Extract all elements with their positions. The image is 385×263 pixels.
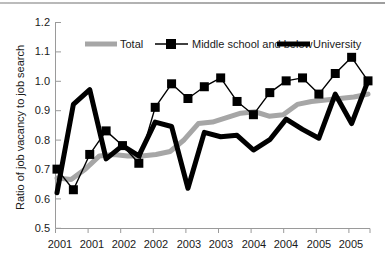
data-point-marker-middle-school-and-below: [69, 185, 78, 194]
y-axis-ticks: [56, 23, 62, 229]
data-point-marker-middle-school-and-below: [298, 73, 307, 82]
x-axis-ticks: [56, 229, 371, 234]
y-tick-label: 0.8: [35, 134, 50, 146]
data-point-marker-middle-school-and-below: [151, 103, 160, 112]
data-point-marker-middle-school-and-below: [200, 82, 209, 91]
x-tick-label: 2001: [48, 238, 72, 250]
x-tick-label: 2002: [112, 238, 136, 250]
x-tick-label: 2005: [339, 238, 363, 250]
y-tick-label: 1.1: [35, 45, 50, 57]
data-point-marker-middle-school-and-below: [183, 94, 192, 103]
data-point-marker-middle-school-and-below: [85, 150, 94, 159]
x-axis-tick-labels: 2001 2001 2002 2002 2003 2003 2004 2004 …: [48, 238, 363, 250]
top-divider-rule: [0, 2, 385, 4]
x-tick-label: 2005: [307, 238, 331, 250]
data-point-marker-middle-school-and-below: [314, 90, 323, 99]
data-point-marker-middle-school-and-below: [102, 126, 111, 135]
data-point-marker-middle-school-and-below: [249, 110, 258, 119]
legend-label-university: University: [313, 38, 362, 50]
x-tick-label: 2003: [177, 238, 201, 250]
y-tick-label: 0.7: [35, 163, 50, 175]
y-tick-label: 1.0: [35, 75, 50, 87]
y-tick-label: 0.5: [35, 222, 50, 234]
y-tick-label: 0.6: [35, 193, 50, 205]
chart-container: Ratio of job vacancy to job search 1.2 1…: [0, 0, 385, 263]
x-tick-label: 2002: [144, 238, 168, 250]
data-point-marker-middle-school-and-below: [233, 97, 242, 106]
y-axis-tick-labels: 1.2 1.1 1.0 0.9 0.8 0.7 0.6 0.5: [35, 16, 50, 234]
job-vacancy-ratio-line-chart: Ratio of job vacancy to job search 1.2 1…: [0, 0, 385, 263]
data-point-marker-middle-school-and-below: [282, 76, 291, 85]
data-point-marker-middle-school-and-below: [167, 79, 176, 88]
y-tick-label: 1.2: [35, 16, 50, 28]
x-tick-label: 2001: [80, 238, 104, 250]
x-tick-label: 2003: [209, 238, 233, 250]
data-point-marker-middle-school-and-below: [216, 73, 225, 82]
series-layer: [53, 53, 373, 194]
y-axis-title: Ratio of job vacancy to job search: [14, 45, 26, 210]
legend-label-total: Total: [120, 38, 143, 50]
legend-marker-square-icon: [166, 39, 176, 49]
data-point-marker-middle-school-and-below: [331, 69, 340, 78]
x-tick-label: 2004: [274, 238, 298, 250]
data-point-marker-middle-school-and-below: [347, 53, 356, 62]
data-point-marker-middle-school-and-below: [134, 159, 143, 168]
y-tick-label: 0.9: [35, 104, 50, 116]
data-point-marker-middle-school-and-below: [265, 88, 274, 97]
chart-legend: Total Middle school and below University: [85, 38, 362, 50]
x-tick-label: 2004: [242, 238, 266, 250]
